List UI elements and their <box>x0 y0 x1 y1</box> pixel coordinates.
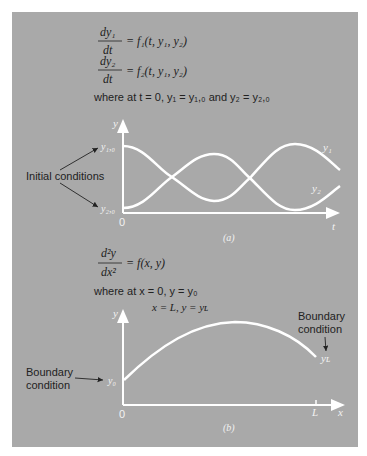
svg-text:= f₂(t, y₁, y₂): = f₂(t, y₁, y₂) <box>126 64 187 78</box>
x-axis-label: t <box>332 220 336 232</box>
caption-a: (a) <box>223 232 235 244</box>
origin-label: 0 <box>119 216 125 228</box>
boundary-annotation-right-1: Boundary <box>298 310 346 322</box>
L-tick-label: L <box>311 406 318 418</box>
y20-tick-label: y₂,₀ <box>100 203 115 214</box>
equation-d2y-dx2: d²y dx² = f(x, y) <box>98 246 165 279</box>
equation-dy1-dt: dy₁ dt = f₁(t, y₁, y₂) <box>98 25 187 57</box>
boundary-annotation-left-2: condition <box>26 379 70 391</box>
chart-b: y x 0 y₀ L yʟ Boundary condition Boundar… <box>26 307 346 434</box>
boundary-condition-text-1: where at x = 0, y = y₀ <box>93 285 198 297</box>
y10-tick-label: y₁,₀ <box>100 141 115 152</box>
y-axis-label: y <box>112 307 118 319</box>
svg-text:d²y: d²y <box>101 246 117 260</box>
x-axis-label: x <box>337 406 343 418</box>
caption-b: (b) <box>223 422 235 434</box>
svg-text:= f₁(t, y₁, y₂): = f₁(t, y₁, y₂) <box>126 34 187 48</box>
equation-dy2-dt: dy₂ dt = f₂(t, y₁, y₂) <box>98 54 187 86</box>
yL-end-label: yʟ <box>320 352 330 364</box>
svg-text:dt: dt <box>103 72 113 86</box>
boundary-condition-text-2: x = L, y = yʟ <box>151 301 208 313</box>
series-label-y1: y₁ <box>322 141 332 153</box>
y0-tick-label: y₀ <box>107 375 116 386</box>
initial-conditions-annotation: Initial conditions <box>26 170 105 182</box>
series-label-y2: y₂ <box>311 182 321 194</box>
origin-label: 0 <box>119 408 125 420</box>
solution-curve <box>124 322 316 380</box>
y-axis-label: y <box>112 117 118 129</box>
svg-text:dy₁: dy₁ <box>100 25 116 39</box>
boundary-annotation-left-1: Boundary <box>26 366 74 378</box>
chart-a: y t 0 y₁,₀ y₂,₀ y₁ y₂ Initial conditions… <box>26 117 340 244</box>
initial-condition-text: where at t = 0, y₁ = y₁,₀ and y₂ = y₂,₀ <box>93 91 270 103</box>
svg-text:dx²: dx² <box>101 265 116 279</box>
svg-text:= f(x, y): = f(x, y) <box>126 256 165 270</box>
svg-text:dy₂: dy₂ <box>100 54 116 68</box>
boundary-annotation-right-2: condition <box>298 323 342 335</box>
figure-diagram: dy₁ dt = f₁(t, y₁, y₂) dy₂ dt = f₂(t, y₁… <box>0 0 367 456</box>
